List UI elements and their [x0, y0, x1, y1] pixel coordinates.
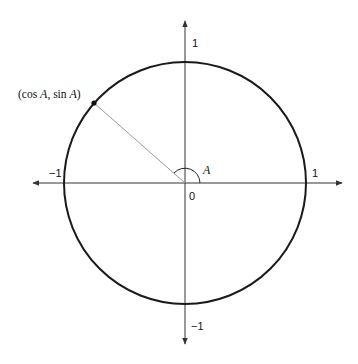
x-axis-neg-tick: −1 [49, 167, 62, 179]
angle-label: A [202, 163, 211, 177]
unit-circle-diagram: (cos A, sin A) A 0 1 −1 1 −1 [0, 0, 358, 364]
x-axis-pos-tick: 1 [312, 167, 318, 179]
point-label: (cos A, sin A) [18, 87, 81, 101]
y-axis-pos-tick: 1 [192, 37, 198, 49]
radius-line [94, 103, 185, 183]
origin-label: 0 [189, 190, 195, 202]
y-axis-neg-tick: −1 [191, 320, 204, 332]
point-on-circle [91, 100, 96, 105]
angle-arc [174, 168, 200, 183]
